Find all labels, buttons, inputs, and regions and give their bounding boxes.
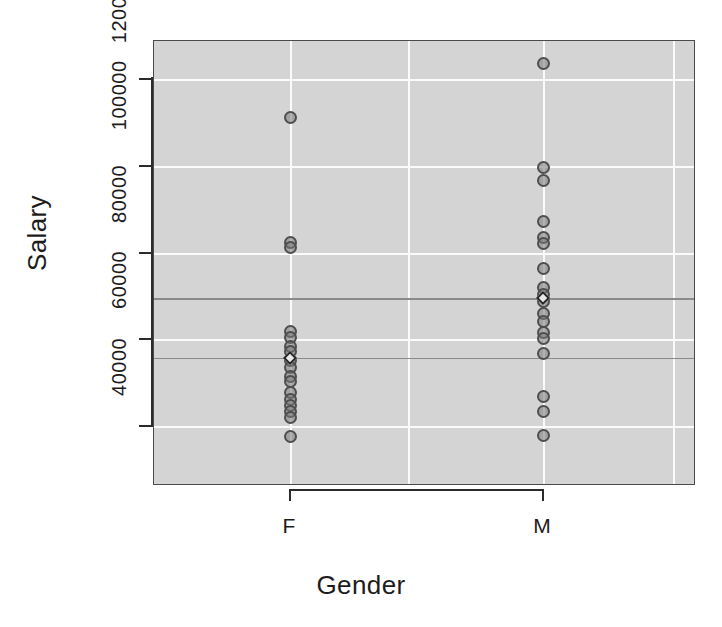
x-axis-tick-label: F xyxy=(259,514,319,538)
y-axis-tick-label: 40000 xyxy=(108,338,131,396)
mean-reference-line xyxy=(154,358,694,359)
y-axis-tick xyxy=(139,425,151,427)
data-point xyxy=(537,347,550,360)
data-point xyxy=(537,174,550,187)
gridline-vertical xyxy=(673,41,675,484)
x-axis-tick xyxy=(542,489,544,501)
data-point xyxy=(537,332,550,345)
mean-reference-line xyxy=(154,298,694,299)
data-point xyxy=(284,411,297,424)
gridline-horizontal xyxy=(154,426,694,428)
data-point xyxy=(537,429,550,442)
x-axis-tick xyxy=(289,489,291,501)
chart-canvas: 400006000080000100000120000 Salary FM Ge… xyxy=(0,0,722,627)
gridline-horizontal xyxy=(154,253,694,255)
x-axis-title: Gender xyxy=(0,570,722,601)
gridline-vertical xyxy=(408,41,410,484)
data-point xyxy=(537,262,550,275)
y-axis-title: Salary xyxy=(22,195,53,271)
data-point xyxy=(537,237,550,250)
mean-diamond-marker xyxy=(283,350,298,365)
y-axis-tick-label: 120000 xyxy=(108,0,131,43)
gridline-horizontal xyxy=(154,166,694,168)
y-axis-line xyxy=(151,77,153,427)
data-point xyxy=(284,241,297,254)
data-point xyxy=(537,161,550,174)
gridline-horizontal xyxy=(154,79,694,81)
x-axis-tick-label: M xyxy=(512,514,572,538)
plot-area xyxy=(154,41,694,484)
x-axis-line xyxy=(289,489,543,491)
plot-panel xyxy=(153,40,695,485)
data-point xyxy=(537,57,550,70)
data-point xyxy=(284,111,297,124)
y-axis-tick xyxy=(139,338,151,340)
y-axis-tick xyxy=(139,165,151,167)
y-axis-tick-label: 60000 xyxy=(108,251,131,309)
mean-diamond-marker xyxy=(536,291,551,306)
data-point xyxy=(537,215,550,228)
data-point xyxy=(537,390,550,403)
y-axis-tick xyxy=(139,78,151,80)
data-point xyxy=(284,430,297,443)
gridline-horizontal xyxy=(154,339,694,341)
data-point xyxy=(537,405,550,418)
y-axis-tick-label: 100000 xyxy=(108,60,131,130)
y-axis-tick-label: 80000 xyxy=(108,164,131,222)
y-axis-tick xyxy=(139,252,151,254)
